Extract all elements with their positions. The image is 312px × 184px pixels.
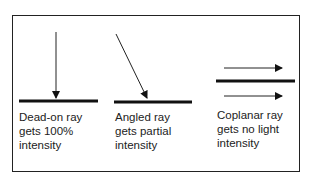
angled-ray-illustration xyxy=(114,34,192,102)
coplanar-caption: Coplanar ray gets no light intensity xyxy=(217,108,283,150)
coplanar-ray-illustration xyxy=(216,68,295,96)
arrow-diagonal-icon xyxy=(116,34,147,98)
dead-on-caption: Dead-on ray gets 100% intensity xyxy=(19,110,82,152)
ray-diagram xyxy=(0,0,312,184)
angled-caption: Angled ray gets partial intensity xyxy=(115,110,171,152)
dead-on-ray-illustration xyxy=(19,32,98,101)
